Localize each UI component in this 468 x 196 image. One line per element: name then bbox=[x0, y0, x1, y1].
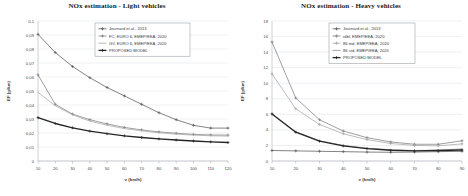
series-marker bbox=[318, 150, 321, 153]
x-tick-label: 10 bbox=[36, 166, 41, 171]
series-marker bbox=[175, 139, 178, 142]
x-tick-label: 40 bbox=[341, 166, 346, 171]
x-tick-label: 60 bbox=[388, 166, 393, 171]
series-marker bbox=[140, 136, 143, 139]
y-tick-label: 0,03 bbox=[26, 117, 35, 122]
y-axis-title: EF (g/km) bbox=[240, 80, 245, 101]
series-marker bbox=[106, 132, 109, 135]
chart-svg-light: 0,10,090,080,070,060,050,040,030,020,010… bbox=[0, 13, 234, 196]
chart-title-light: NOx estimation - Light vehicles bbox=[0, 2, 234, 10]
series-marker bbox=[294, 149, 297, 152]
y-tick-label: 10 bbox=[263, 81, 268, 86]
x-tick-label: 120 bbox=[225, 166, 233, 171]
series-marker bbox=[389, 149, 392, 152]
x-tick-label: 70 bbox=[139, 166, 144, 171]
x-tick-label: 20 bbox=[53, 166, 58, 171]
legend-label: Journard et al., 2013 bbox=[343, 26, 381, 31]
x-tick-label: 30 bbox=[70, 166, 75, 171]
series-marker bbox=[140, 103, 143, 106]
x-tick-label: 50 bbox=[365, 166, 370, 171]
series-marker bbox=[437, 144, 440, 147]
x-tick-label: 80 bbox=[157, 166, 162, 171]
x-tick-label: 110 bbox=[207, 166, 214, 171]
chart-svg-heavy: 181614121086420102030405060708090v (km/h… bbox=[234, 13, 468, 196]
y-tick-label: 0,06 bbox=[26, 75, 35, 80]
series-marker bbox=[209, 140, 212, 143]
legend-item: FC, EURO 6, EMEP/EEA, 2020 bbox=[99, 34, 168, 39]
series-marker bbox=[123, 134, 126, 137]
y-axis-title: EF (g/km) bbox=[6, 80, 11, 101]
x-tick-label: 70 bbox=[412, 166, 417, 171]
y-tick-label: 0,07 bbox=[26, 61, 35, 66]
legend-label: GV, EURO 6, EMEP/EEA, 2020 bbox=[109, 41, 167, 46]
series-marker bbox=[157, 137, 160, 140]
y-tick-label: 2 bbox=[266, 143, 269, 148]
legend-label: PROPOSED MODEL bbox=[343, 55, 383, 60]
y-tick-label: 0,1 bbox=[28, 19, 34, 24]
series-marker bbox=[192, 139, 195, 142]
plot-area-heavy: 181614121086420102030405060708090v (km/h… bbox=[234, 13, 468, 196]
y-tick-label: 0,09 bbox=[26, 33, 35, 38]
series-marker bbox=[342, 144, 345, 147]
x-tick-label: 30 bbox=[317, 166, 322, 171]
x-tick-label: 90 bbox=[174, 166, 179, 171]
series-marker bbox=[271, 41, 274, 44]
x-tick-label: 10 bbox=[270, 166, 275, 171]
series-marker bbox=[366, 138, 369, 141]
series-marker bbox=[175, 118, 178, 121]
figure-two-panel-charts: NOx estimation - Light vehicles 0,10,090… bbox=[0, 0, 468, 196]
series-marker bbox=[366, 151, 369, 154]
y-tick-label: 4 bbox=[266, 127, 269, 132]
plot-area-light: 0,10,090,080,070,060,050,040,030,020,010… bbox=[0, 13, 234, 196]
legend-item: GV, EURO 6, EMEP/EEA, 2020 bbox=[99, 41, 168, 46]
legend-label: 86 md, EMEP/EEA, 2020 bbox=[343, 41, 390, 46]
series-marker bbox=[71, 126, 74, 129]
series-marker bbox=[192, 124, 195, 127]
panel-heavy-vehicles: NOx estimation - Heavy vehicles 18161412… bbox=[234, 0, 468, 196]
series-marker bbox=[342, 132, 345, 135]
series-marker bbox=[123, 94, 126, 97]
x-tick-label: 50 bbox=[105, 166, 110, 171]
series-marker bbox=[461, 139, 464, 142]
y-tick-label: 6 bbox=[266, 112, 269, 117]
series-marker bbox=[209, 127, 212, 130]
chart-title-heavy: NOx estimation - Heavy vehicles bbox=[234, 2, 468, 10]
y-tick-label: 8 bbox=[266, 96, 269, 101]
y-tick-label: 0,04 bbox=[26, 103, 35, 108]
y-tick-label: 12 bbox=[263, 65, 268, 70]
x-tick-label: 80 bbox=[436, 166, 441, 171]
series-marker bbox=[106, 86, 109, 89]
y-tick-label: 0,01 bbox=[26, 145, 35, 150]
y-tick-label: 0,02 bbox=[26, 131, 35, 136]
series-marker bbox=[342, 150, 345, 153]
x-tick-label: 60 bbox=[122, 166, 127, 171]
y-tick-label: 0,05 bbox=[26, 89, 35, 94]
y-tick-label: 0,08 bbox=[26, 47, 35, 52]
x-axis-title: v (km/h) bbox=[359, 177, 376, 182]
y-tick-label: 14 bbox=[263, 50, 268, 55]
x-tick-label: 100 bbox=[190, 166, 198, 171]
series-marker bbox=[461, 142, 464, 145]
y-tick-label: 18 bbox=[263, 19, 268, 24]
x-tick-label: 20 bbox=[293, 166, 298, 171]
legend-label: FC, EURO 6, EMEP/EEA, 2020 bbox=[109, 34, 167, 39]
x-tick-label: 40 bbox=[87, 166, 92, 171]
x-tick-label: 90 bbox=[460, 166, 465, 171]
series-marker bbox=[227, 141, 230, 144]
legend-label: PROPOSED MODEL bbox=[109, 48, 149, 53]
y-tick-label: 0 bbox=[266, 159, 269, 164]
series-line-3 bbox=[272, 74, 462, 146]
y-tick-label: 0 bbox=[32, 159, 35, 164]
legend-label: Journard et al., 2013 bbox=[109, 26, 147, 31]
y-tick-label: 16 bbox=[263, 34, 268, 39]
panel-light-vehicles: NOx estimation - Light vehicles 0,10,090… bbox=[0, 0, 234, 196]
series-marker bbox=[157, 111, 160, 114]
series-line-3 bbox=[38, 92, 228, 136]
legend-label: 86 std, EMEP/EEA, 2020 bbox=[343, 48, 389, 53]
legend-label: rdbl, EMEP/EEA, 2020 bbox=[343, 34, 385, 39]
series-marker bbox=[271, 149, 274, 152]
series-marker bbox=[366, 147, 369, 150]
series-marker bbox=[88, 130, 91, 133]
series-marker bbox=[227, 127, 230, 130]
series-marker bbox=[389, 142, 392, 145]
